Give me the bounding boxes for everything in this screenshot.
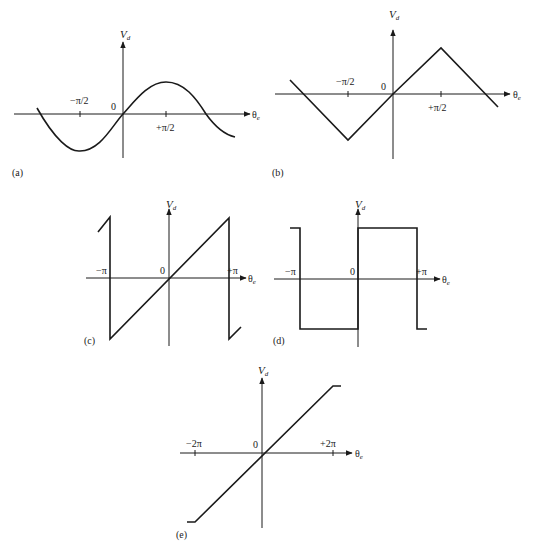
x-axis-label: θe [513,89,521,102]
y-axis-label: Vd [258,364,269,378]
y-axis-label: Vd [355,198,366,212]
sine-curve [37,82,235,151]
panel-c-sawtooth: −π +π 0 Vd θe (c) [84,198,256,347]
panel-d-square: −π +π 0 Vd θe (d) [273,198,450,347]
x-axis-label: θe [355,448,363,461]
panel-b-triangle: −π/2 +π/2 0 Vd θe (b) [272,8,521,179]
panel-a-sinusoid: −π/2 +π/2 0 Vd θe (a) [12,28,260,179]
panel-label: (c) [84,335,95,347]
x-axis-label: θe [442,274,450,287]
x-axis-label: θe [248,273,256,286]
tick-label: +π/2 [156,122,174,133]
origin-label: 0 [381,81,386,92]
origin-label: 0 [111,101,116,112]
tick-label: −π [285,266,296,277]
tick-label: −2π [186,438,202,449]
x-axis-label: θe [252,109,260,122]
panel-label: (d) [273,335,285,347]
panel-label: (e) [176,529,187,541]
tick-label: +2π [320,438,336,449]
tick-label: −π [96,265,107,276]
origin-label: 0 [350,266,355,277]
tick-label: −π/2 [70,95,88,106]
y-axis-label: Vd [389,8,400,22]
panel-label: (b) [272,167,284,179]
tick-label: +π/2 [428,102,446,113]
origin-label: 0 [253,439,258,450]
y-axis-label: Vd [166,198,177,212]
panel-e-linear: −2π +2π 0 Vd θe (e) [176,364,363,541]
tick-label: +π [416,266,427,277]
origin-label: 0 [160,265,165,276]
figure-canvas: −π/2 +π/2 0 Vd θe (a) −π/2 +π/2 0 Vd θe … [0,0,538,553]
panel-label: (a) [12,167,23,179]
tick-label: −π/2 [336,76,354,87]
tick-label: +π [227,265,238,276]
y-axis-label: Vd [120,28,131,42]
saturated-linear-curve [187,386,341,522]
